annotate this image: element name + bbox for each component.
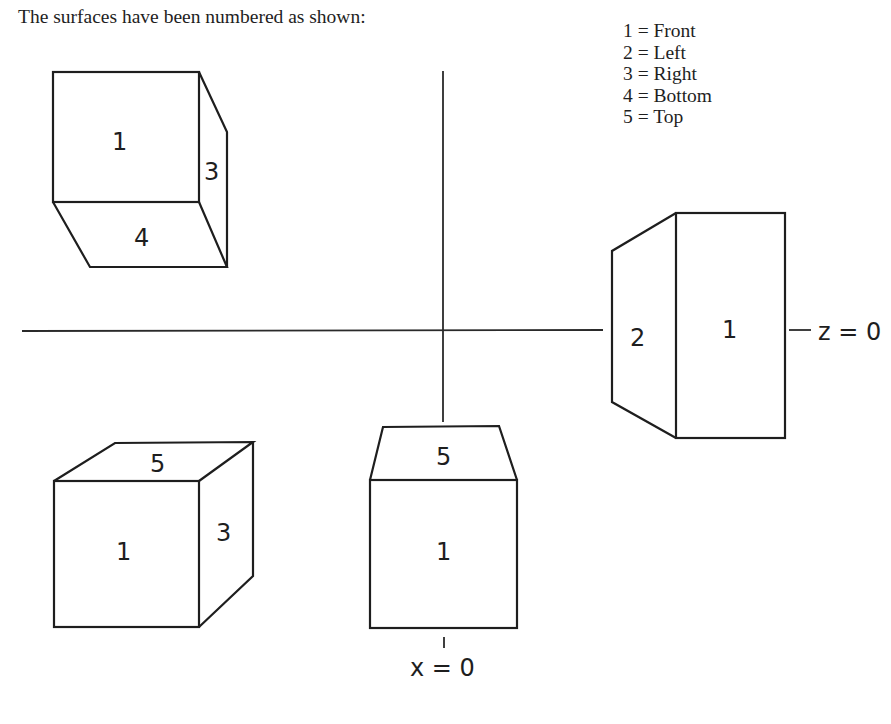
horizontal-axis-z0 [22, 330, 603, 331]
face-label-top: 5 [150, 450, 165, 478]
cube-top-left: 1 3 4 [53, 72, 227, 267]
cube-right: 2 1 z = 0 [612, 213, 881, 438]
axes [22, 71, 603, 422]
cube-bottom-center: 5 1 x = 0 [370, 426, 517, 682]
cube-bottom-left: 5 1 3 [54, 442, 253, 627]
z-axis-label: z = 0 [818, 318, 881, 346]
face-label-right: 3 [204, 158, 219, 186]
cube-views-diagram: 1 3 4 2 1 z = 0 5 1 3 5 1 x = 0 [0, 0, 891, 724]
face-label-front: 1 [722, 316, 737, 344]
face-label-front: 1 [112, 128, 127, 156]
x-axis-label: x = 0 [410, 654, 475, 682]
face-label-top: 5 [436, 443, 451, 471]
face-label-left: 2 [630, 324, 645, 352]
face-label-front: 1 [436, 538, 451, 566]
face-label-right: 3 [216, 519, 231, 547]
face-label-bottom: 4 [134, 224, 149, 252]
face-label-front: 1 [116, 538, 131, 566]
